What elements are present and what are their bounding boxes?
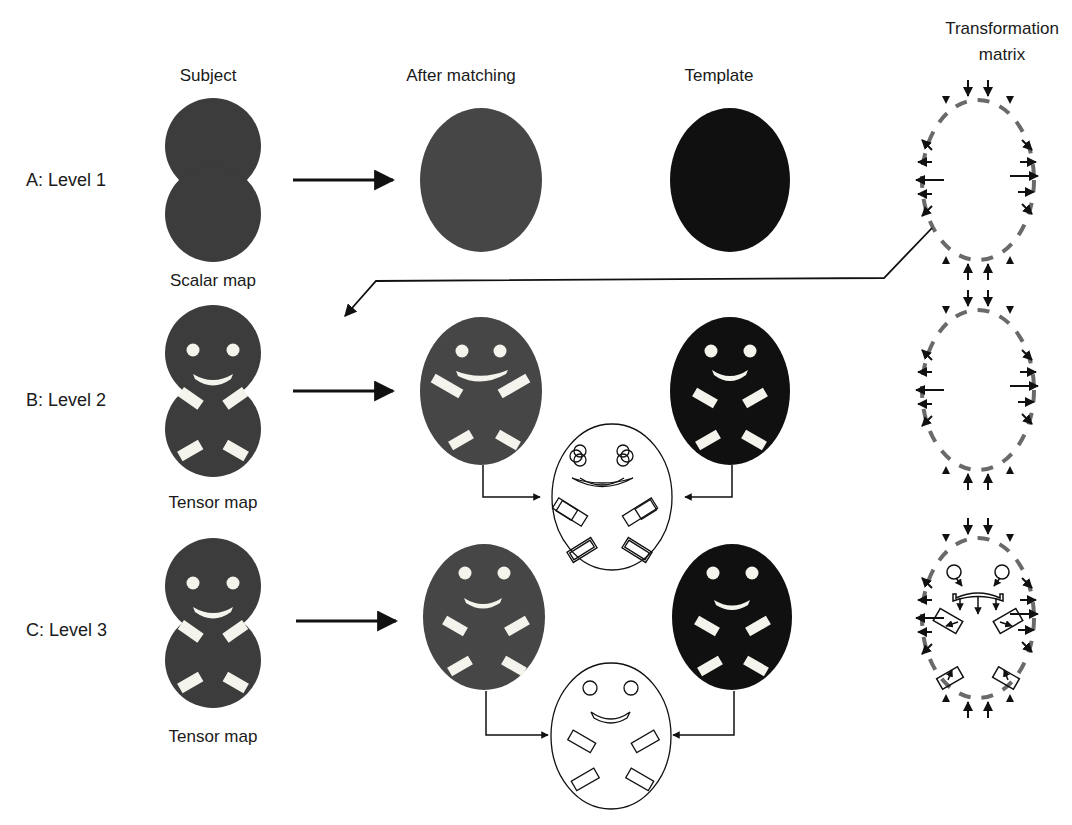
transformation-matrix-level-3 (916, 518, 1038, 718)
after-matching-level-2 (420, 317, 542, 465)
overlay-comparison-level-2 (552, 424, 672, 570)
after-matching-level-3 (423, 544, 545, 690)
registration-diagram (0, 0, 1072, 825)
transformation-matrix-level-2 (916, 290, 1038, 490)
merge-line-matched-level-3 (486, 691, 548, 735)
after-matching-level-1 (420, 108, 542, 252)
transformation-matrix-level-1 (916, 80, 1038, 280)
subject-tensor-map-level-2 (165, 305, 261, 477)
template-level-3 (672, 544, 792, 690)
subject-tensor-map-level-3 (165, 538, 261, 708)
overlay-comparison-level-3 (551, 663, 671, 809)
merge-line-template-level-3 (673, 691, 734, 735)
subject-scalar-map-level-1 (165, 98, 261, 262)
merge-line-matched-level-2 (483, 465, 540, 497)
connector-level1-to-level2 (345, 228, 932, 316)
merge-line-template-level-2 (685, 465, 732, 497)
template-level-1 (670, 108, 790, 252)
template-level-2 (670, 317, 790, 465)
